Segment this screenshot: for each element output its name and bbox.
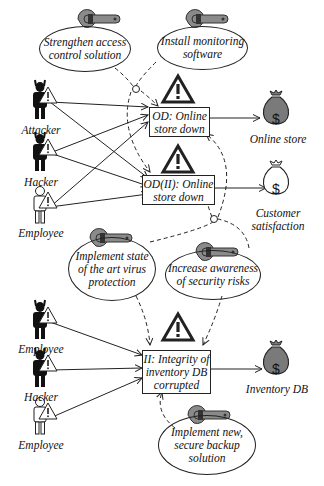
scenario-text: store down xyxy=(143,191,214,204)
agent-label: Employee xyxy=(14,343,68,356)
junction-circle xyxy=(211,216,218,223)
wrench-icon xyxy=(78,10,120,28)
junction-circle xyxy=(133,86,140,93)
treatment-text: Implement new, xyxy=(171,426,243,439)
treatment-text: Implement state xyxy=(75,250,148,263)
treatment-security-awareness[interactable]: Increase awarenessof security risks xyxy=(165,250,261,300)
asset-label: Customer xyxy=(246,207,310,220)
svg-text:$: $ xyxy=(272,111,280,127)
asset-customer-satisfaction-icon: $ xyxy=(263,160,288,197)
treatment-text: Increase awareness xyxy=(168,262,258,275)
diagram-canvas: $ $ $ xyxy=(0,0,324,486)
scenario-text: II: Integrity of xyxy=(143,353,210,366)
warning-icon xyxy=(163,146,193,172)
treatment-text: of security risks xyxy=(168,275,258,288)
asset-online-store-icon: $ xyxy=(263,90,288,127)
treatment-text: control solution xyxy=(44,49,126,62)
asset-label: satisfaction xyxy=(246,220,310,233)
warning-icon xyxy=(163,76,193,102)
scenario-text: OD(II): Online xyxy=(143,178,214,191)
treatment-secure-backup[interactable]: Implement new,secure backupsolution xyxy=(158,415,256,475)
threat-scenario-od-ii[interactable]: OD(II): Online store down xyxy=(142,175,215,205)
wrench-icon xyxy=(186,10,228,28)
agent-label: Hacker xyxy=(16,176,66,189)
treatment-text: solution xyxy=(171,452,243,465)
treatment-strengthen-access-control[interactable]: Strengthen accesscontrol solution xyxy=(39,26,131,72)
asset-label: Inventory DB xyxy=(242,383,312,396)
threat-agent-employee-icon xyxy=(33,300,57,339)
treatment-text: software xyxy=(161,48,244,61)
agent-label: Hacker xyxy=(16,391,66,404)
treatment-text: Strengthen access xyxy=(44,36,126,49)
warning-icon xyxy=(163,314,193,340)
treatment-virus-protection[interactable]: Implement stateof the art virusprotectio… xyxy=(68,237,156,301)
scenario-text: inventory DB xyxy=(143,366,210,379)
threat-agent-employee-icon xyxy=(34,187,57,224)
agent-label: Employee xyxy=(14,439,68,452)
scenario-text: corrupted xyxy=(143,379,210,392)
treatment-install-monitoring[interactable]: Install monitoringsoftware xyxy=(157,26,248,70)
agent-label: Employee xyxy=(14,227,68,240)
treatment-text: Install monitoring xyxy=(161,35,244,48)
treatment-text: secure backup xyxy=(171,439,243,452)
asset-label: Online store xyxy=(246,133,310,146)
threat-agent-attacker-icon xyxy=(33,80,57,119)
treatment-text: protection xyxy=(75,276,148,289)
treatment-text: of the art virus xyxy=(75,263,148,276)
threat-scenario-od[interactable]: OD: Online store down xyxy=(149,107,210,137)
asset-inventory-db-icon: $ xyxy=(263,340,288,377)
agent-label: Attacker xyxy=(16,124,66,137)
svg-text:$: $ xyxy=(272,181,280,197)
scenario-text: store down xyxy=(150,123,209,136)
svg-text:$: $ xyxy=(272,361,280,377)
threat-agent-hacker-icon xyxy=(33,132,57,171)
threat-scenario-ii[interactable]: II: Integrity of inventory DB corrupted xyxy=(142,350,211,394)
scenario-text: OD: Online xyxy=(150,110,209,123)
